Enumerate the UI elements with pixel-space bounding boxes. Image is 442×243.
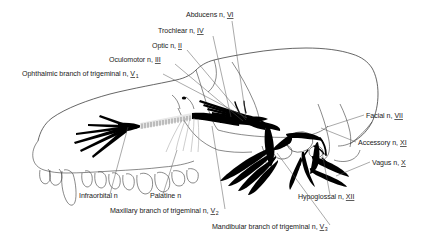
label-text-optic: Optic n, [152, 42, 176, 50]
label-text-facial: Facial n, [366, 112, 392, 120]
label-numeral-facial: VII [394, 112, 403, 120]
label-numeral-accessory: XI [400, 139, 407, 147]
label-accessory: Accessory n,XI [358, 139, 407, 147]
label-text-hypoglossal: Hypoglossal n, [298, 193, 344, 201]
label-vagus: Vagus n,X [372, 159, 406, 167]
label-infraorbital: Infraorbital n [79, 192, 118, 200]
label-sub-mandibular: 3 [325, 226, 328, 232]
label-numeral-oculomotor: III [155, 56, 161, 64]
label-numeral-vagus: X [401, 159, 406, 167]
optic-canal-marker [182, 96, 186, 99]
label-text-vagus: Vagus n, [372, 159, 399, 167]
vagus-leader [336, 162, 370, 176]
label-abducens: Abducens n,VI [186, 11, 234, 19]
label-text-infraorbital: Infraorbital n [79, 192, 118, 200]
label-text-maxillary: Maxillary branch of trigeminal n, [110, 207, 209, 215]
label-oculomotor: Oculomotor n,III [109, 56, 161, 64]
label-maxillary: Maxillary branch of trigeminal n,V2 [110, 207, 219, 216]
label-numeral-trochlear: IV [197, 27, 204, 35]
label-numeral-hypoglossal: XII [346, 193, 355, 201]
cranial-nerve-figure: Abducens n,VITrochlear n,IVOptic n,IIOcu… [0, 0, 442, 243]
label-numeral-maxillary: V [211, 207, 216, 215]
label-facial: Facial n,VII [366, 112, 403, 120]
label-numeral-optic: II [178, 42, 182, 50]
label-text-palatine: Palatine n [150, 192, 181, 200]
label-numeral-abducens: VI [227, 11, 234, 19]
label-trochlear: Trochlear n,IV [158, 27, 204, 35]
label-text-accessory: Accessory n, [358, 139, 398, 147]
label-hypoglossal: Hypoglossal n,XII [298, 193, 354, 201]
label-text-abducens: Abducens n, [186, 11, 225, 19]
label-palatine: Palatine n [150, 192, 181, 200]
label-numeral-mandibular: V [320, 223, 325, 231]
label-text-mandibular: Mandibular branch of trigeminal n, [212, 223, 318, 231]
label-ophthalmic: Ophthalmic branch of trigeminal n,V1 [22, 70, 139, 79]
label-sub-ophthalmic: 1 [136, 73, 139, 79]
label-text-ophthalmic: Ophthalmic branch of trigeminal n, [22, 70, 128, 78]
label-mandibular: Mandibular branch of trigeminal n,V3 [212, 223, 328, 232]
label-sub-maxillary: 2 [216, 210, 219, 216]
label-numeral-ophthalmic: V [130, 70, 135, 78]
label-text-trochlear: Trochlear n, [158, 27, 195, 35]
palatine-leader [163, 150, 177, 194]
label-optic: Optic n,II [152, 42, 182, 50]
label-text-oculomotor: Oculomotor n, [109, 56, 153, 64]
